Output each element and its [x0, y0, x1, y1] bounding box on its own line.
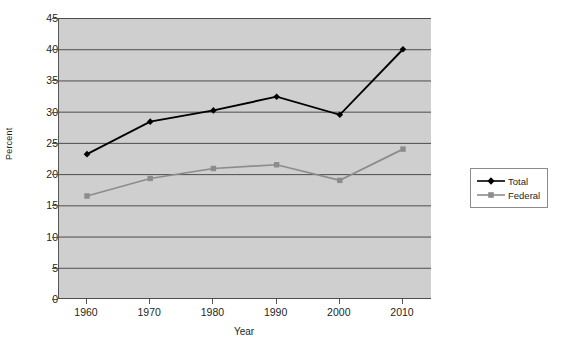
- x-tick-mark: [149, 299, 150, 304]
- x-tick-label: 1990: [255, 306, 297, 318]
- data-point-marker: [337, 178, 342, 183]
- legend-label-federal: Federal: [506, 190, 540, 201]
- legend-label-total: Total: [506, 176, 528, 187]
- x-tick-label: 1970: [128, 306, 170, 318]
- x-axis-ticks: 196019701980199020002010: [58, 299, 430, 329]
- x-tick-mark: [402, 299, 403, 304]
- data-point-marker: [274, 162, 279, 167]
- series-line: [87, 49, 403, 154]
- data-point-marker: [84, 151, 91, 158]
- chart-figure: Percent 051015202530354045 1960197019801…: [0, 0, 565, 349]
- data-point-marker: [211, 166, 216, 171]
- x-tick-label: 2010: [381, 306, 423, 318]
- x-tick-mark: [276, 299, 277, 304]
- x-tick-label: 1960: [65, 306, 107, 318]
- legend-item-federal: Federal: [476, 188, 540, 202]
- x-tick-label: 1980: [191, 306, 233, 318]
- x-tick-mark: [212, 299, 213, 304]
- x-tick-label: 2000: [318, 306, 360, 318]
- legend: Total Federal: [470, 168, 548, 208]
- data-point-marker: [400, 146, 405, 151]
- y-axis-title: Percent: [4, 146, 14, 160]
- data-point-marker: [147, 118, 154, 125]
- series-line: [87, 149, 403, 196]
- series-federal: [84, 146, 405, 198]
- plot-svg: [59, 18, 431, 299]
- x-tick-mark: [339, 299, 340, 304]
- series-total: [84, 46, 407, 158]
- data-point-marker: [210, 107, 217, 114]
- legend-marker-diamond-icon: [476, 175, 506, 187]
- data-point-marker: [273, 93, 280, 100]
- gridlines: [59, 19, 431, 299]
- data-series-layer: [84, 46, 407, 199]
- plot-area: [58, 18, 431, 299]
- data-point-marker: [84, 193, 89, 198]
- y-axis-ticks: 051015202530354045: [18, 18, 58, 299]
- x-tick-mark: [86, 299, 87, 304]
- data-point-marker: [148, 176, 153, 181]
- x-axis-title: Year: [58, 326, 430, 337]
- legend-item-total: Total: [476, 174, 540, 188]
- legend-marker-square-icon: [476, 189, 506, 201]
